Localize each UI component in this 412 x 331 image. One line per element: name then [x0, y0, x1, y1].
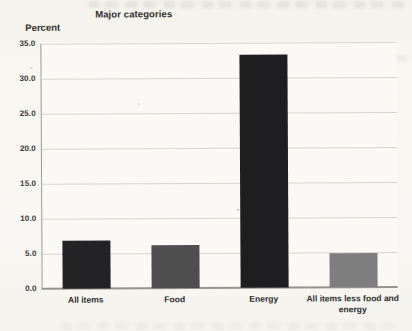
y-tick-label: 15.0: [10, 179, 36, 188]
y-axis-title: Percent: [25, 22, 60, 33]
chart-title: Major categories: [95, 8, 172, 19]
plot-area: [40, 42, 397, 289]
x-category-label: All items: [36, 294, 136, 306]
gridline: [42, 181, 397, 184]
scan-speckle: [30, 67, 32, 69]
gridline: [42, 147, 397, 150]
y-tick-label: 30.0: [10, 74, 36, 83]
y-tick-label: 5.0: [10, 249, 36, 258]
y-tick-label: 35.0: [9, 39, 35, 48]
y-tick-label: 25.0: [10, 109, 36, 118]
gridline: [42, 112, 397, 115]
x-category-label: All items less food and energy: [303, 293, 403, 316]
gridline: [41, 42, 396, 45]
bar-energy: [239, 55, 288, 288]
bar-all-items: [62, 241, 110, 289]
x-category-label: Energy: [214, 293, 314, 305]
y-tick-label: 0.0: [11, 284, 37, 293]
gridline: [42, 216, 397, 219]
bar-food: [151, 245, 199, 288]
gridline: [42, 77, 397, 80]
y-tick-label: 20.0: [10, 144, 36, 153]
scanned-document-page: Percent Major categories 0.05.010.015.02…: [0, 0, 412, 331]
y-tick-label: 10.0: [10, 214, 36, 223]
bar-all-items-less-food-and-energy: [329, 253, 377, 287]
x-category-label: Food: [125, 294, 225, 306]
bar-chart: Percent Major categories 0.05.010.015.02…: [0, 0, 412, 331]
